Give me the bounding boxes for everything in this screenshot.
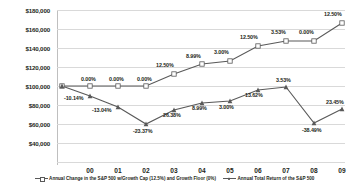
- x-axis-tick-label: 09: [332, 167, 349, 174]
- data-label-sp500: -10.14%: [64, 95, 83, 101]
- data-label-sp500: 3.00%: [219, 104, 234, 110]
- data-label-capped: 12.50%: [240, 34, 258, 40]
- data-label-capped: 0.00%: [81, 76, 96, 82]
- legend-label-sp500: Annual Total Return of the S&P 500: [237, 176, 314, 181]
- x-axis-tick-label: 07: [276, 167, 296, 174]
- data-label-capped: 0.00%: [299, 29, 314, 35]
- x-axis-tick-label: 05: [220, 167, 240, 174]
- data-label-sp500: 13.62%: [245, 92, 263, 98]
- data-label-capped: 0.00%: [137, 76, 152, 82]
- data-label-capped: 3.53%: [271, 29, 286, 35]
- data-label-sp500: 23.45%: [326, 99, 344, 105]
- x-axis-tick-label: 08: [304, 167, 324, 174]
- data-label-sp500: 8.99%: [192, 105, 207, 111]
- data-label-capped: 12.50%: [324, 11, 342, 17]
- plot-area: [0, 0, 349, 195]
- data-label-capped: 0.00%: [109, 76, 124, 82]
- data-label-sp500: -23.37%: [133, 128, 152, 134]
- x-axis-tick-label: 06: [248, 167, 268, 174]
- data-label-capped: 12.50%: [156, 62, 174, 68]
- x-axis-tick-label: 01: [108, 167, 128, 174]
- data-label-sp500: -38.49%: [302, 127, 321, 133]
- data-label-sp500: 26.38%: [163, 112, 181, 118]
- x-axis-tick-label: 03: [164, 167, 184, 174]
- legend-item-capped[interactable]: Annual Change in the S&P 500 w/Growth Ca…: [35, 176, 216, 181]
- legend-label-capped: Annual Change in the S&P 500 w/Growth Ca…: [49, 176, 216, 181]
- data-label-capped: 8.99%: [186, 53, 201, 59]
- legend-item-sp500[interactable]: Annual Total Return of the S&P 500: [223, 176, 314, 181]
- legend-triangle-marker-icon: [223, 177, 236, 181]
- legend-square-marker-icon: [35, 177, 48, 181]
- chart-legend: Annual Change in the S&P 500 w/Growth Ca…: [0, 176, 349, 181]
- chart-container: $180,000 $160,000 $140,000 $120,000 $100…: [0, 0, 349, 195]
- x-axis-tick-label: 02: [136, 167, 156, 174]
- x-axis-tick-label: 04: [192, 167, 212, 174]
- data-label-capped: 3.00%: [214, 49, 229, 55]
- data-label-sp500: 3.53%: [276, 77, 291, 83]
- x-axis-tick-label: 00: [80, 167, 100, 174]
- data-label-sp500: -13.04%: [92, 107, 111, 113]
